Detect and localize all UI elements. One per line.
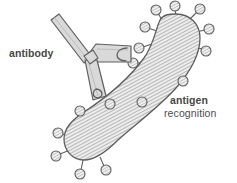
label-antigen: antigen [170,94,208,106]
antigen-body [64,14,200,160]
diagram-illustration [0,0,237,183]
figure-canvas: antibody antigen recognition [0,0,237,183]
antigen-group [51,1,214,179]
label-recognition: recognition [164,107,216,119]
antibody-lower-stem-arm [85,60,106,100]
label-antibody: antibody [9,47,54,59]
